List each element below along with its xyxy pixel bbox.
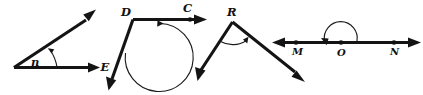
- angle-r-right-ray: [233, 22, 296, 72]
- angle-diagrams-canvas: n E D C: [0, 0, 423, 95]
- point-O-dot: [339, 40, 344, 45]
- angle-d-arc: [125, 24, 193, 92]
- label-n: n: [31, 55, 39, 69]
- mon-arc: [324, 22, 357, 41]
- angle-n-arc-arrowhead: [48, 48, 54, 53]
- mon-left-arrowhead: [272, 38, 285, 48]
- angle-d-slanted-arrowhead: [106, 77, 116, 91]
- angle-d-arc-arrowhead: [157, 20, 163, 27]
- point-C-dot: [188, 17, 193, 22]
- label-R: R: [226, 5, 237, 19]
- point-M-dot: [294, 40, 299, 45]
- mon-right-arrowhead: [408, 38, 421, 48]
- label-C: C: [183, 1, 193, 15]
- label-N: N: [389, 46, 400, 57]
- label-M: M: [291, 46, 304, 57]
- diagram-angle-n: n E: [14, 10, 110, 75]
- diagram-angle-mon: M O N: [272, 22, 421, 58]
- angle-r-left-ray: [201, 22, 233, 70]
- angle-d-slanted-ray: [112, 20, 133, 80]
- point-N-dot: [392, 40, 397, 45]
- angle-n-base-arrowhead: [88, 63, 100, 73]
- diagram-angle-d: D C: [106, 1, 207, 92]
- angle-d-horizontal-arrowhead: [194, 15, 207, 25]
- angle-diagrams-figure: n E D C: [0, 0, 423, 95]
- angle-n-upper-ray: [14, 20, 86, 68]
- angle-r-left-arrowhead: [195, 67, 206, 81]
- label-D: D: [120, 5, 131, 19]
- label-O: O: [337, 47, 346, 58]
- label-E: E: [100, 60, 110, 74]
- angle-r-arc: [221, 41, 247, 45]
